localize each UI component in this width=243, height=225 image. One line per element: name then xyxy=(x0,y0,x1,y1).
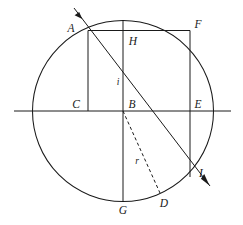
point-label-G: G xyxy=(119,204,128,216)
variable-label-i: i xyxy=(117,77,120,87)
point-label-A: A xyxy=(66,22,75,34)
point-label-C: C xyxy=(72,98,80,110)
circle-geometry-diagram: A H F C B E I D G i r xyxy=(0,0,243,225)
variable-label-r: r xyxy=(135,156,139,166)
ray-arrowhead-top xyxy=(75,12,83,19)
point-label-B: B xyxy=(128,98,135,110)
point-label-E: E xyxy=(193,98,201,110)
dashed-radius-b-to-d xyxy=(123,111,160,193)
figure-root: A H F C B E I D G i r xyxy=(0,0,243,225)
point-label-D: D xyxy=(159,197,169,209)
point-label-H: H xyxy=(128,35,138,47)
point-label-F: F xyxy=(193,18,202,30)
